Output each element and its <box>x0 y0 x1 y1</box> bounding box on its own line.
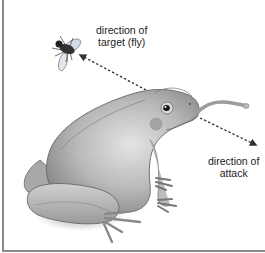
attack-direction-label: direction of attack <box>208 155 259 179</box>
diagram-frame: direction of target (fly) direction of a… <box>0 0 265 253</box>
attack-direction-arrow <box>200 118 254 144</box>
frog-eye <box>161 102 173 114</box>
target-label-line1: direction of <box>96 24 147 36</box>
attack-label-line1: direction of <box>208 155 259 167</box>
attack-label-line2: attack <box>208 167 259 179</box>
fly-icon <box>52 36 83 72</box>
frog-tongue <box>197 102 246 113</box>
target-direction-arrow <box>82 56 146 90</box>
target-direction-label: direction of target (fly) <box>96 24 147 48</box>
target-label-line2: target (fly) <box>96 36 147 48</box>
